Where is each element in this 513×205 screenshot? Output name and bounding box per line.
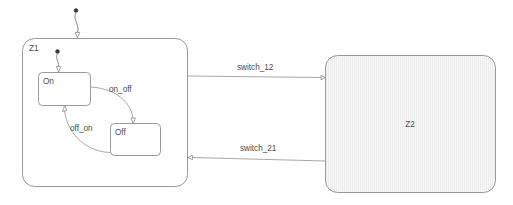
state-on-label: On bbox=[43, 77, 54, 86]
transition-switch-21[interactable]: switch_21 bbox=[188, 144, 326, 161]
arrowhead-icon bbox=[75, 32, 80, 38]
initial-arrow-z1 bbox=[75, 13, 78, 33]
region-z1-label: Z1 bbox=[29, 44, 39, 53]
initial-marker-z1 bbox=[74, 9, 80, 38]
transition-switch-12-label: switch_12 bbox=[237, 63, 274, 72]
state-off-label: Off bbox=[115, 128, 126, 137]
region-z2-label: Z2 bbox=[405, 120, 415, 129]
transition-switch-12[interactable]: switch_12 bbox=[188, 63, 326, 80]
region-z1-box[interactable] bbox=[23, 39, 188, 187]
state-on[interactable]: On bbox=[39, 73, 91, 106]
region-z2[interactable]: Z2 bbox=[326, 56, 496, 193]
state-off[interactable]: Off bbox=[111, 124, 161, 156]
transition-switch-21-label: switch_21 bbox=[240, 144, 277, 153]
transition-switch-21-line[interactable] bbox=[193, 158, 326, 162]
statechart-diagram: Z1 On Off on_off bbox=[0, 0, 513, 205]
diagram-canvas: Z1 On Off on_off bbox=[0, 0, 513, 205]
transition-on-off-label: on_off bbox=[109, 85, 132, 94]
arrowhead-icon bbox=[188, 155, 193, 159]
initial-dot-icon bbox=[56, 50, 60, 54]
arrowhead-icon bbox=[321, 75, 326, 79]
initial-dot-icon bbox=[74, 9, 78, 13]
transition-switch-12-line[interactable] bbox=[188, 76, 321, 78]
region-z1[interactable]: Z1 bbox=[23, 39, 188, 187]
transition-off-on-label: off_on bbox=[70, 124, 93, 133]
